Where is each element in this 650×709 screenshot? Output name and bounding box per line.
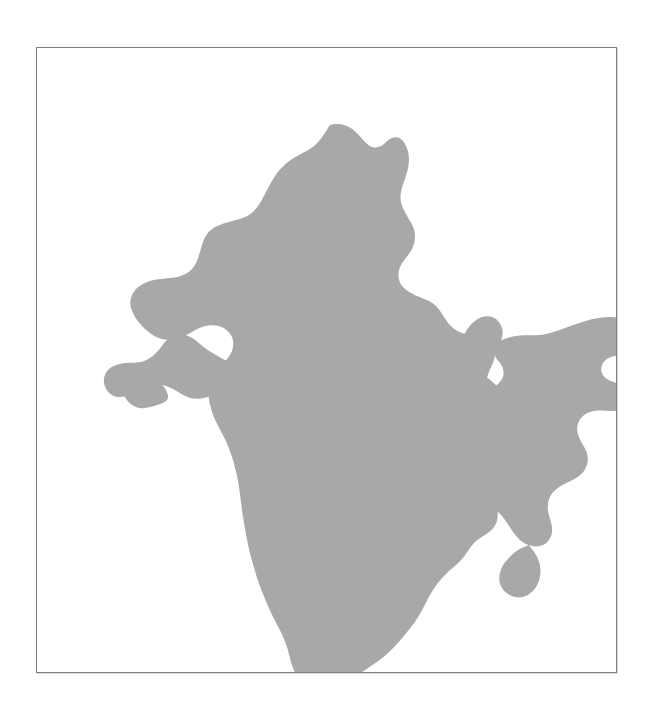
page-title: Map of India — [0, 21, 1, 22]
map-frame — [36, 47, 617, 673]
figure-root: Map of India — [0, 0, 650, 709]
india-map-svg — [37, 48, 616, 672]
